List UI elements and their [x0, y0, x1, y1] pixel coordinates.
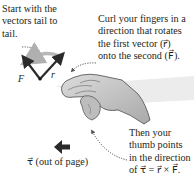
curl-label-line-2: direction that rotates [98, 25, 186, 37]
curl-label-line-3: the first vector (r⃗) [98, 38, 186, 50]
rotation-arrow-icon [32, 53, 60, 58]
start-label-line-2: vectors tail to [2, 15, 57, 27]
start-label-line-1: Start with the [2, 3, 57, 15]
thumb-label-line-1: Then your [129, 127, 191, 139]
start-label-line-3: tail. [2, 28, 57, 40]
start-label: Start with the vectors tail to tail. [2, 3, 57, 40]
right-hand-rule-figure: Start with the vectors tail to tail. F⃗ … [0, 0, 194, 178]
curl-label-line-1: Curl your fingers in a [98, 13, 186, 25]
curl-label-line-4: onto the second (F⃗). [98, 50, 186, 62]
thumb-label: Then your thumb points in the direction … [129, 127, 191, 177]
torque-direction-label: τ⃗ (out of page) [27, 156, 88, 168]
common-tail-dot [38, 77, 41, 80]
curl-label: Curl your fingers in a direction that ro… [98, 13, 186, 63]
thumb-label-line-4: of τ⃗ = r⃗ × F⃗. [129, 164, 191, 176]
vector-r-label: r⃗ [51, 69, 63, 81]
thumb-label-line-2: thumb points [129, 139, 191, 151]
thumb-label-line-3: in the direction [129, 152, 191, 164]
thumb-pointer-arrow [92, 131, 127, 160]
vector-f-label: F⃗ [18, 73, 32, 85]
curl-pointer-arrow [72, 63, 96, 71]
torque-arrow-icon [54, 140, 70, 154]
